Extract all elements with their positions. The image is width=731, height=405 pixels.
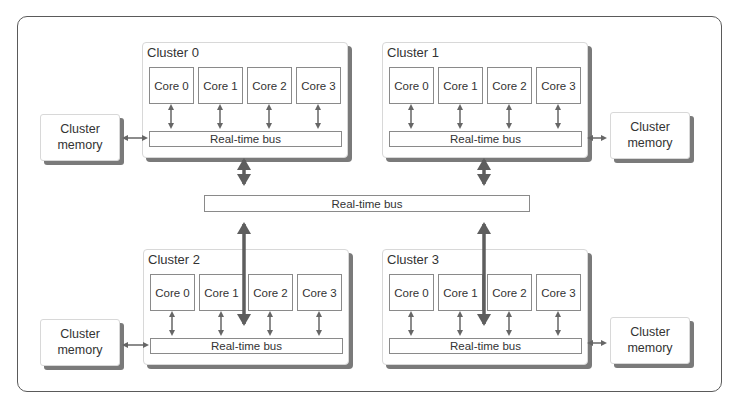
core-0: Core 0 <box>150 274 195 311</box>
cluster-memory-3: Clustermemory <box>610 317 690 364</box>
cluster-bus: Real-time bus <box>149 131 342 147</box>
cluster-1: Cluster 1 Core 0 Core 1 Core 2 Core 3 Re… <box>382 42 588 158</box>
cluster-bus: Real-time bus <box>150 338 343 354</box>
memory-label-line2: memory <box>57 138 102 152</box>
cluster-memory-0: Clustermemory <box>40 114 120 161</box>
cluster-memory-1: Clustermemory <box>610 112 690 159</box>
core-1: Core 1 <box>199 274 244 311</box>
cluster-title: Cluster 3 <box>387 252 439 267</box>
cluster-bus: Real-time bus <box>389 131 582 147</box>
cluster-2: Cluster 2 Core 0 Core 1 Core 2 Core 3 Re… <box>143 249 349 365</box>
cluster-title: Cluster 1 <box>387 45 439 60</box>
cluster-bus: Real-time bus <box>389 338 582 354</box>
core-1: Core 1 <box>438 274 483 311</box>
core-3: Core 3 <box>296 67 341 104</box>
core-0: Core 0 <box>149 67 194 104</box>
core-0: Core 0 <box>389 67 434 104</box>
memory-label-line1: Cluster <box>60 122 100 136</box>
cluster-3: Cluster 3 Core 0 Core 1 Core 2 Core 3 Re… <box>382 249 588 365</box>
core-2: Core 2 <box>487 274 532 311</box>
core-3: Core 3 <box>536 274 581 311</box>
memory-label-line1: Cluster <box>630 120 670 134</box>
memory-label-line2: memory <box>627 341 672 355</box>
core-2: Core 2 <box>247 67 292 104</box>
memory-label-line2: memory <box>57 343 102 357</box>
cluster-memory-2: Clustermemory <box>40 319 120 366</box>
memory-label-line1: Cluster <box>60 327 100 341</box>
core-1: Core 1 <box>198 67 243 104</box>
core-3: Core 3 <box>536 67 581 104</box>
main-real-time-bus: Real-time bus <box>204 195 530 212</box>
memory-label-line1: Cluster <box>630 325 670 339</box>
cluster-title: Cluster 0 <box>147 45 199 60</box>
core-2: Core 2 <box>487 67 532 104</box>
core-3: Core 3 <box>297 274 342 311</box>
cluster-0: Cluster 0 Core 0 Core 1 Core 2 Core 3 Re… <box>142 42 348 158</box>
cluster-title: Cluster 2 <box>148 252 200 267</box>
memory-label-line2: memory <box>627 136 672 150</box>
core-2: Core 2 <box>248 274 293 311</box>
core-0: Core 0 <box>389 274 434 311</box>
core-1: Core 1 <box>438 67 483 104</box>
